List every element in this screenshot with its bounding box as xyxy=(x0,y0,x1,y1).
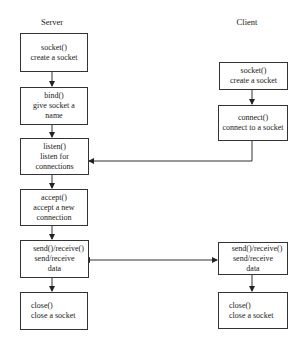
call-label: listen() xyxy=(43,142,66,152)
call-label: connect() xyxy=(238,113,268,123)
description: send/receive xyxy=(233,254,273,264)
client-column-label: Client xyxy=(207,17,287,27)
description: accept a new xyxy=(33,203,74,213)
server-close-box: close() close a socket xyxy=(20,292,88,330)
description: data xyxy=(48,264,61,274)
description: connections xyxy=(35,162,73,172)
call-label: send()/receive() xyxy=(33,244,84,254)
description: data xyxy=(246,264,259,274)
description: connection xyxy=(36,213,71,223)
description: name xyxy=(45,111,62,121)
call-label: bind() xyxy=(44,91,64,101)
description: connect to a socket xyxy=(222,123,283,133)
client-socket-box: socket() create a socket xyxy=(219,62,288,90)
description: create a socket xyxy=(230,76,277,86)
description: close a socket xyxy=(229,311,273,321)
description: send/receive xyxy=(35,254,75,264)
client-send-receive-box: send()/receive() send/receive data xyxy=(218,242,288,275)
server-accept-box: accept() accept a new connection xyxy=(20,189,88,226)
description: close a socket xyxy=(31,311,75,321)
call-label: socket() xyxy=(41,43,67,53)
call-label: socket() xyxy=(241,66,267,76)
description: create a socket xyxy=(30,53,77,63)
call-label: close() xyxy=(229,301,251,311)
call-label: send()/receive() xyxy=(232,244,283,254)
server-listen-box: listen() listen for connections xyxy=(20,138,89,175)
description: give socket a xyxy=(33,101,75,111)
client-close-box: close() close a socket xyxy=(218,292,288,329)
description: listen for xyxy=(40,152,69,162)
server-column-label: Server xyxy=(12,17,92,27)
server-socket-box: socket() create a socket xyxy=(20,33,88,72)
call-label: accept() xyxy=(41,193,67,203)
server-send-receive-box: send()/receive() send/receive data xyxy=(20,240,89,278)
server-bind-box: bind() give socket a name xyxy=(20,87,88,125)
call-label: close() xyxy=(31,301,53,311)
client-connect-box: connect() connect to a socket xyxy=(218,105,288,141)
